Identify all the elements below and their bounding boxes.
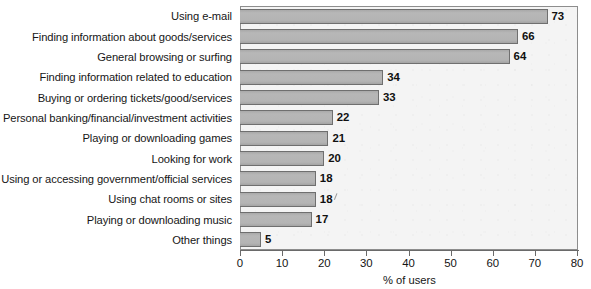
x-axis-tick [366, 251, 367, 256]
x-axis-tick-label: 50 [436, 257, 466, 270]
category-label: Buying or ordering tickets/good/services [0, 92, 232, 104]
x-axis-tick-label: 10 [267, 257, 297, 270]
x-axis-tick [535, 251, 536, 256]
category-label: Using or accessing government/official s… [0, 173, 232, 185]
x-axis-tick-label: 60 [478, 257, 508, 270]
x-axis-title: % of users [240, 274, 579, 287]
bar-value-label: 5 [265, 233, 271, 246]
x-axis-tick [324, 251, 325, 256]
horizontal-bar-chart: Using e-mailFinding information about go… [0, 0, 591, 289]
x-axis-tick [493, 251, 494, 256]
bar-value-label: 17 [316, 213, 329, 226]
bar [240, 151, 324, 166]
category-label: Using chat rooms or sites [0, 193, 232, 205]
category-label: Finding information about goods/services [0, 31, 232, 43]
bar [240, 131, 328, 146]
x-axis-tick [240, 251, 241, 256]
bar [240, 110, 333, 125]
bar-value-label: 66 [522, 30, 535, 43]
x-axis-tick-label: 40 [394, 257, 424, 270]
x-axis-tick [282, 251, 283, 256]
category-label: Playing or downloading music [0, 214, 232, 226]
bar [240, 49, 510, 64]
category-label: Personal banking/financial/investment ac… [0, 112, 232, 124]
category-label: Using e-mail [0, 10, 232, 22]
x-axis-tick-label: 30 [351, 257, 381, 270]
x-axis-tick-label: 0 [225, 257, 255, 270]
bar [240, 192, 316, 207]
x-axis-tick-label: 70 [520, 257, 550, 270]
x-axis-tick-label: 80 [562, 257, 591, 270]
bar-value-label: 20 [328, 152, 341, 165]
x-axis-tick-label: 20 [309, 257, 339, 270]
x-axis-tick [577, 251, 578, 256]
bar-value-label: 18 [320, 172, 333, 185]
bar-value-label: 34 [387, 71, 400, 84]
category-label: Playing or downloading games [0, 132, 232, 144]
category-label: Finding information related to education [0, 71, 232, 83]
bar [240, 232, 261, 247]
category-label: General browsing or surfing [0, 51, 232, 63]
bar [240, 171, 316, 186]
bar-value-label: 33 [383, 91, 396, 104]
bar [240, 90, 379, 105]
category-label: Other things [0, 234, 232, 246]
bar [240, 9, 548, 24]
bar [240, 70, 383, 85]
category-label: Looking for work [0, 153, 232, 165]
x-axis-tick [409, 251, 410, 256]
bar [240, 29, 518, 44]
bar-value-label: 22 [337, 111, 350, 124]
x-axis-line [240, 250, 579, 251]
category-axis-labels: Using e-mailFinding information about go… [0, 6, 232, 250]
bar-value-label: 64 [514, 50, 527, 63]
bar [240, 212, 312, 227]
bar-value-label: 73 [552, 10, 565, 23]
bar-value-label: 21 [332, 132, 345, 145]
x-axis-tick [451, 251, 452, 256]
bar-value-label: 18 [320, 193, 333, 206]
